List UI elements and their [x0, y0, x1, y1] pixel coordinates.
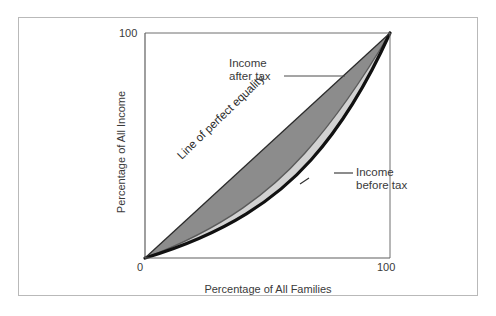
- y-axis-title: Percentage of All Income: [115, 29, 127, 275]
- chart-svg: [0, 0, 496, 316]
- x-axis-tick-max: 100: [377, 262, 395, 273]
- annotation-income-before-tax: Income before tax: [356, 166, 407, 192]
- x-axis-title: Percentage of All Families: [145, 283, 391, 295]
- x-axis-tick-min: 0: [137, 262, 143, 273]
- lorenz-curve-chart: 100 0 100 Percentage of All Families Per…: [0, 0, 496, 316]
